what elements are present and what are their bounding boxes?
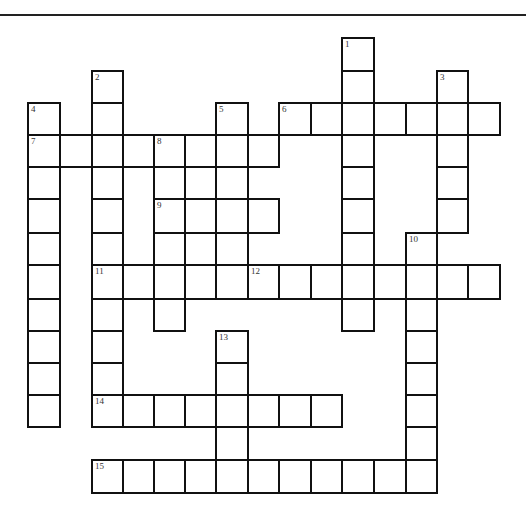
crossword-cell[interactable] xyxy=(247,394,280,428)
crossword-cell[interactable] xyxy=(405,426,438,461)
crossword-cell[interactable] xyxy=(436,198,469,234)
crossword-cell[interactable] xyxy=(405,362,438,396)
crossword-cell[interactable] xyxy=(373,459,407,494)
crossword-cell[interactable] xyxy=(341,102,375,136)
crossword-cell[interactable]: 12 xyxy=(247,264,280,300)
crossword-cell[interactable] xyxy=(310,102,343,136)
crossword-cell[interactable] xyxy=(310,394,343,428)
crossword-cell[interactable] xyxy=(27,166,61,200)
crossword-cell[interactable] xyxy=(153,394,186,428)
crossword-cell[interactable] xyxy=(27,232,61,266)
crossword-cell[interactable] xyxy=(436,264,469,300)
crossword-cell[interactable] xyxy=(91,102,124,136)
crossword-cell[interactable] xyxy=(91,232,124,266)
crossword-cell[interactable] xyxy=(184,232,217,266)
crossword-cell[interactable] xyxy=(27,298,61,332)
crossword-cell[interactable] xyxy=(27,330,61,364)
crossword-cell[interactable] xyxy=(373,102,407,136)
crossword-cell[interactable] xyxy=(122,134,155,168)
crossword-cell[interactable] xyxy=(373,264,407,300)
crossword-cell[interactable] xyxy=(215,198,249,234)
crossword-cell[interactable]: 7 xyxy=(27,134,61,168)
crossword-cell[interactable] xyxy=(341,166,375,200)
crossword-cell[interactable] xyxy=(278,264,312,300)
crossword-cell[interactable] xyxy=(405,459,438,494)
crossword-cell[interactable] xyxy=(153,232,186,266)
crossword-cell[interactable] xyxy=(215,264,249,300)
crossword-cell[interactable] xyxy=(436,102,469,136)
crossword-cell[interactable] xyxy=(215,426,249,461)
crossword-cell[interactable] xyxy=(405,298,438,332)
clue-number: 14 xyxy=(95,397,104,406)
crossword-cell[interactable] xyxy=(184,134,217,168)
crossword-cell[interactable]: 13 xyxy=(215,330,249,364)
crossword-cell[interactable] xyxy=(153,298,186,332)
crossword-cell[interactable] xyxy=(341,459,375,494)
crossword-cell[interactable]: 4 xyxy=(27,102,61,136)
crossword-cell[interactable] xyxy=(215,459,249,494)
crossword-cell[interactable]: 10 xyxy=(405,232,438,266)
crossword-cell[interactable] xyxy=(122,394,155,428)
crossword-cell[interactable] xyxy=(184,264,217,300)
crossword-cell[interactable] xyxy=(405,102,438,136)
clue-number: 6 xyxy=(282,105,287,114)
crossword-cell[interactable] xyxy=(27,198,61,234)
crossword-cell[interactable] xyxy=(341,232,375,266)
crossword-cell[interactable]: 15 xyxy=(91,459,124,494)
crossword-cell[interactable] xyxy=(27,394,61,428)
crossword-cell[interactable] xyxy=(278,459,312,494)
crossword-cell[interactable] xyxy=(184,394,217,428)
crossword-cell[interactable]: 3 xyxy=(436,70,469,104)
crossword-cell[interactable] xyxy=(341,298,375,332)
crossword-cell[interactable] xyxy=(215,232,249,266)
crossword-cell[interactable] xyxy=(91,330,124,364)
clue-number: 7 xyxy=(31,137,36,146)
crossword-cell[interactable] xyxy=(405,394,438,428)
crossword-cell[interactable] xyxy=(59,134,93,168)
crossword-cell[interactable]: 1 xyxy=(341,37,375,72)
crossword-cell[interactable] xyxy=(341,70,375,104)
crossword-cell[interactable] xyxy=(184,166,217,200)
crossword-cell[interactable] xyxy=(215,134,249,168)
crossword-cell[interactable] xyxy=(215,166,249,200)
crossword-cell[interactable] xyxy=(247,134,280,168)
crossword-cell[interactable] xyxy=(341,134,375,168)
crossword-cell[interactable] xyxy=(91,298,124,332)
crossword-cell[interactable] xyxy=(310,264,343,300)
crossword-cell[interactable] xyxy=(184,459,217,494)
crossword-cell[interactable] xyxy=(310,459,343,494)
crossword-cell[interactable]: 8 xyxy=(153,134,186,168)
crossword-cell[interactable] xyxy=(91,198,124,234)
crossword-cell[interactable] xyxy=(153,264,186,300)
crossword-cell[interactable] xyxy=(467,102,501,136)
crossword-cell[interactable] xyxy=(27,362,61,396)
crossword-cell[interactable] xyxy=(405,264,438,300)
crossword-cell[interactable]: 11 xyxy=(91,264,124,300)
crossword-cell[interactable] xyxy=(247,198,280,234)
crossword-cell[interactable] xyxy=(153,166,186,200)
crossword-cell[interactable]: 5 xyxy=(215,102,249,136)
crossword-cell[interactable] xyxy=(184,198,217,234)
crossword-cell[interactable]: 9 xyxy=(153,198,186,234)
crossword-cell[interactable] xyxy=(405,330,438,364)
crossword-cell[interactable] xyxy=(91,134,124,168)
crossword-cell[interactable] xyxy=(278,394,312,428)
crossword-cell[interactable] xyxy=(27,264,61,300)
crossword-cell[interactable] xyxy=(91,362,124,396)
crossword-cell[interactable] xyxy=(215,362,249,396)
crossword-cell[interactable] xyxy=(436,134,469,168)
crossword-cell[interactable] xyxy=(341,264,375,300)
crossword-cell[interactable] xyxy=(467,264,501,300)
crossword-cell[interactable] xyxy=(215,394,249,428)
crossword-cell[interactable] xyxy=(436,166,469,200)
crossword-cell[interactable] xyxy=(91,166,124,200)
crossword-cell[interactable]: 6 xyxy=(278,102,312,136)
crossword-cell[interactable] xyxy=(153,459,186,494)
crossword-cell[interactable] xyxy=(247,459,280,494)
crossword-cell[interactable] xyxy=(341,198,375,234)
crossword-cell[interactable]: 14 xyxy=(91,394,124,428)
crossword-cell[interactable] xyxy=(122,264,155,300)
crossword-cell[interactable] xyxy=(122,459,155,494)
crossword-cell[interactable]: 2 xyxy=(91,70,124,104)
clue-number: 12 xyxy=(251,267,260,276)
